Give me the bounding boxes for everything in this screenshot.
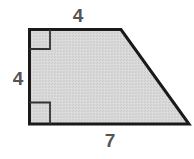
bottom-side-label: 7	[105, 130, 116, 151]
trapezoid-shape	[30, 30, 190, 125]
trapezoid-diagram: 4 4 7	[0, 0, 194, 159]
trapezoid-figure: 4 4 7	[0, 0, 194, 159]
left-side-label: 4	[13, 68, 24, 89]
top-side-label: 4	[73, 5, 84, 26]
